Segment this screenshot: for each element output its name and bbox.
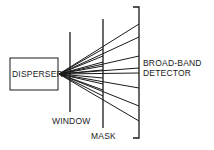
- detector-label-line1: BROAD-BAND: [143, 58, 202, 68]
- window-label: WINDOW: [52, 116, 91, 126]
- mask-label: MASK: [91, 131, 116, 141]
- optical-diagram: DISPERSER WINDOW MASK BROAD-BAND DETECTO…: [0, 0, 214, 150]
- detector-label-line2: DETECTOR: [143, 68, 191, 78]
- disperser-label: DISPERSER: [12, 69, 63, 79]
